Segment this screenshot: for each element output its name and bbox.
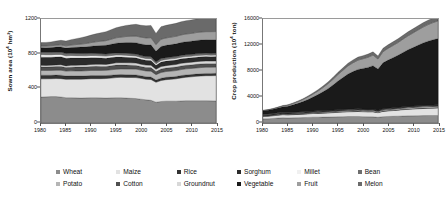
legend-label: Wheat [63, 166, 82, 177]
x-tick-label: 2000 [357, 127, 369, 133]
legend-swatch-icon [116, 182, 120, 186]
chart-panel-crop-production: Crop production (104 ton) 04000800012000… [224, 0, 447, 158]
y-axis-title-text: Sown area (10 [6, 49, 13, 92]
legend-item-groundnut[interactable]: Groundnut [177, 178, 235, 189]
plot-area-sown [40, 18, 217, 124]
y-axis-title-unit: hm²) [6, 30, 13, 46]
stacked-area-svg-sown [41, 19, 216, 123]
x-tick-mark [115, 123, 116, 126]
x-tick-mark [141, 123, 142, 126]
x-tick-mark [439, 123, 440, 126]
area-series-vegetable [263, 39, 438, 115]
x-tick-mark [413, 123, 414, 126]
x-tick-mark [363, 123, 364, 126]
x-tick-mark [312, 123, 313, 126]
legend-item-maize[interactable]: Maize [116, 166, 174, 177]
legend-item-rice[interactable]: Rice [177, 166, 235, 177]
legend-label: Sorghum [244, 166, 271, 177]
x-tick-mark [337, 123, 338, 126]
x-tick-mark [166, 123, 167, 126]
x-tick-label: 1995 [332, 127, 344, 133]
legend-item-melon[interactable]: Melon [358, 178, 416, 189]
x-tick-mark [287, 123, 288, 126]
x-axis-ticks-left: 19801985199019952000200520102015 [40, 123, 217, 137]
x-tick-label: 2005 [160, 127, 172, 133]
y-tick-label: 12000 [244, 41, 259, 47]
legend-label: Maize [123, 166, 141, 177]
legend-item-cotton[interactable]: Cotton [116, 178, 174, 189]
x-tick-label: 1990 [307, 127, 319, 133]
legend-item-wheat[interactable]: Wheat [56, 166, 114, 177]
x-tick-label: 1980 [256, 127, 268, 133]
legend-swatch-icon [56, 182, 60, 186]
x-tick-label: 2005 [382, 127, 394, 133]
legend-label: Potato [63, 178, 82, 189]
legend-item-fruit[interactable]: Fruit [297, 178, 355, 189]
plot-area-production [262, 18, 439, 124]
legend-label: Millet [304, 166, 319, 177]
y-axis-ticks-left: 04008001200 [14, 0, 40, 122]
figure-stacked-area-charts: Sown area (104 hm²) 04008001200 19801985… [0, 0, 447, 202]
y-tick-label: 1200 [25, 15, 37, 21]
chart-panel-sown-area: Sown area (104 hm²) 04008001200 19801985… [0, 0, 223, 158]
legend-label: Cotton [123, 178, 142, 189]
legend-label: Rice [184, 166, 197, 177]
x-tick-label: 2010 [408, 127, 420, 133]
y-tick-label: 400 [28, 84, 37, 90]
x-tick-label: 2000 [135, 127, 147, 133]
y-tick-label: 16000 [244, 15, 259, 21]
x-tick-label: 2010 [186, 127, 198, 133]
legend-item-bean[interactable]: Bean [358, 166, 416, 177]
x-tick-mark [65, 123, 66, 126]
x-tick-label: 2015 [433, 127, 445, 133]
y-axis-ticks-right: 0400080001200016000 [236, 0, 262, 122]
legend-swatch-icon [237, 182, 241, 186]
x-tick-mark [388, 123, 389, 126]
legend-swatch-icon [358, 182, 362, 186]
y-tick-label: 8000 [247, 67, 259, 73]
legend-swatch-icon [177, 170, 181, 174]
legend-item-millet[interactable]: Millet [297, 166, 355, 177]
x-tick-mark [217, 123, 218, 126]
x-tick-label: 2015 [211, 127, 223, 133]
legend-swatch-icon [116, 170, 120, 174]
x-tick-mark [191, 123, 192, 126]
legend-swatch-icon [237, 170, 241, 174]
legend-item-sorghum[interactable]: Sorghum [237, 166, 295, 177]
legend-item-potato[interactable]: Potato [56, 178, 114, 189]
legend-label: Vegetable [244, 178, 273, 189]
x-tick-mark [40, 123, 41, 126]
x-tick-label: 1985 [281, 127, 293, 133]
y-tick-label: 4000 [247, 93, 259, 99]
legend-label: Bean [365, 166, 380, 177]
legend-swatch-icon [358, 170, 362, 174]
legend-swatch-icon [56, 170, 60, 174]
x-tick-label: 1985 [59, 127, 71, 133]
legend-swatch-icon [177, 182, 181, 186]
x-tick-label: 1990 [85, 127, 97, 133]
legend-label: Groundnut [184, 178, 215, 189]
legend-label: Fruit [304, 178, 317, 189]
x-tick-mark [262, 123, 263, 126]
stacked-area-svg-production [263, 19, 438, 123]
x-tick-mark [90, 123, 91, 126]
y-axis-title-exponent: 4 [229, 36, 234, 39]
x-tick-label: 1980 [34, 127, 46, 133]
legend-swatch-icon [297, 170, 301, 174]
legend-label: Melon [365, 178, 383, 189]
chart-legend: WheatPotatoMaizeCottonRiceGroundnutSorgh… [56, 166, 416, 189]
legend-swatch-icon [297, 182, 301, 186]
x-axis-ticks-right: 19801985199019952000200520102015 [262, 123, 439, 137]
legend-item-vegetable[interactable]: Vegetable [237, 178, 295, 189]
x-tick-label: 1995 [110, 127, 122, 133]
y-tick-label: 800 [28, 50, 37, 56]
